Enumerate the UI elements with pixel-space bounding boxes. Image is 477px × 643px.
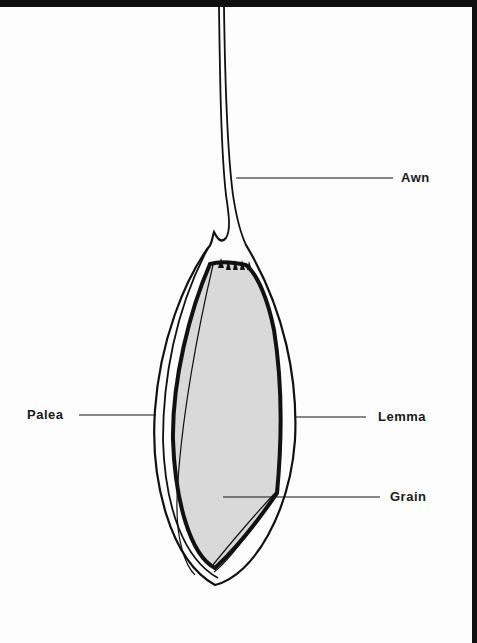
grain [173, 262, 280, 575]
floret-diagram [0, 0, 477, 643]
palea-label: Palea [27, 407, 63, 422]
lemma-label: Lemma [378, 409, 426, 424]
awn [219, 7, 246, 245]
awn-label: Awn [401, 170, 430, 185]
grain-label: Grain [390, 489, 426, 504]
